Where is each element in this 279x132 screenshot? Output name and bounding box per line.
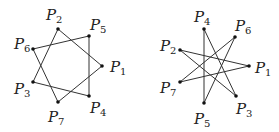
point-P1 — [100, 64, 104, 68]
point-P6 — [233, 35, 237, 39]
label-P3: P3 — [13, 80, 30, 99]
label-P4: P4 — [89, 99, 106, 118]
edge-P3-P2 — [33, 29, 58, 82]
point-P3 — [31, 80, 35, 84]
label-P1: P1 — [109, 58, 126, 77]
point-P4 — [87, 94, 91, 98]
label-P4: P4 — [193, 8, 210, 27]
point-P4 — [202, 27, 206, 31]
label-P3: P3 — [235, 100, 252, 119]
point-P2 — [178, 48, 182, 52]
label-P6: P6 — [234, 17, 251, 36]
label-P2: P2 — [159, 37, 176, 56]
label-P5: P5 — [89, 16, 106, 35]
point-P2 — [56, 27, 60, 31]
heptagram-7-3-figure: P1P2P3P4P5P6P7 — [159, 8, 271, 129]
heptagram-7-2-figure: P1P2P3P4P5P6P7 — [13, 6, 126, 127]
point-P7 — [178, 80, 182, 84]
heptagram-diagram: P1P2P3P4P5P6P7P1P2P3P4P5P6P7 — [0, 0, 279, 132]
label-P5: P5 — [193, 110, 210, 129]
point-P6 — [31, 47, 35, 51]
point-P5 — [202, 101, 206, 105]
edge-P6-P5 — [33, 36, 89, 49]
label-P1: P1 — [254, 59, 271, 78]
point-P1 — [247, 64, 251, 68]
edge-P4-P3 — [204, 29, 236, 96]
edge-P1-P7 — [58, 66, 102, 102]
label-P7: P7 — [47, 108, 64, 127]
label-P6: P6 — [13, 35, 30, 54]
point-P3 — [234, 94, 238, 98]
point-P5 — [87, 34, 91, 38]
edge-P7-P6 — [33, 49, 58, 102]
edge-P2-P1 — [58, 29, 102, 66]
label-P2: P2 — [45, 6, 62, 25]
label-P7: P7 — [159, 79, 176, 98]
point-P7 — [56, 100, 60, 104]
